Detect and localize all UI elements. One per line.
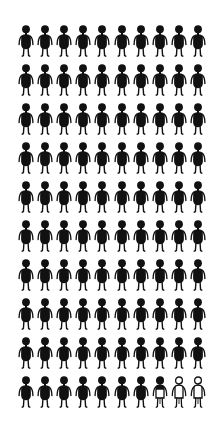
- person-icon-filled: [17, 376, 35, 412]
- person-icon-filled: [113, 64, 131, 100]
- person-icon-filled: [93, 298, 111, 334]
- person-icon-filled: [93, 25, 111, 61]
- person-icon-filled: [74, 181, 92, 217]
- person-icon-filled: [132, 337, 150, 373]
- person-icon-filled: [36, 103, 54, 139]
- person-icon-filled: [113, 298, 131, 334]
- person-icon-filled: [74, 337, 92, 373]
- person-icon-filled: [17, 103, 35, 139]
- person-icon-filled: [189, 337, 207, 373]
- person-icon-filled: [170, 259, 188, 295]
- person-icon-filled: [170, 103, 188, 139]
- person-icon-filled: [151, 220, 169, 256]
- person-icon-filled: [17, 64, 35, 100]
- person-icon-filled: [113, 376, 131, 412]
- person-icon-filled: [113, 181, 131, 217]
- person-icon-filled: [74, 64, 92, 100]
- person-icon-filled: [17, 259, 35, 295]
- person-icon-filled: [55, 25, 73, 61]
- person-icon-filled: [17, 181, 35, 217]
- person-icon-filled: [36, 220, 54, 256]
- person-icon-filled: [93, 142, 111, 178]
- person-icon-filled: [93, 103, 111, 139]
- person-icon-filled: [151, 298, 169, 334]
- person-icon-filled: [132, 220, 150, 256]
- person-icon-filled: [36, 337, 54, 373]
- person-icon-filled: [170, 142, 188, 178]
- person-icon-filled: [55, 298, 73, 334]
- person-icon-filled: [132, 376, 150, 412]
- person-icon-filled: [113, 25, 131, 61]
- person-icon-filled: [132, 103, 150, 139]
- person-icon-filled: [93, 337, 111, 373]
- person-icon-filled: [113, 259, 131, 295]
- person-icon-filled: [170, 181, 188, 217]
- person-icon-filled: [132, 64, 150, 100]
- person-icon-filled: [74, 220, 92, 256]
- person-icon-filled: [189, 103, 207, 139]
- person-icon-filled: [74, 298, 92, 334]
- person-icon-filled: [189, 142, 207, 178]
- person-icon-filled: [151, 64, 169, 100]
- person-icon-filled: [74, 259, 92, 295]
- person-icon-filled: [151, 181, 169, 217]
- person-icon-filled: [151, 142, 169, 178]
- person-icon-partial: [151, 376, 169, 412]
- person-icon-filled: [17, 337, 35, 373]
- person-icon-filled: [55, 103, 73, 139]
- person-icon-filled: [55, 337, 73, 373]
- person-icon-filled: [17, 25, 35, 61]
- person-icon-filled: [170, 220, 188, 256]
- person-icon-filled: [17, 298, 35, 334]
- person-icon-filled: [36, 298, 54, 334]
- person-icon-filled: [189, 259, 207, 295]
- person-icon-filled: [74, 376, 92, 412]
- person-icon-filled: [170, 337, 188, 373]
- person-icon-filled: [189, 298, 207, 334]
- person-icon-filled: [151, 103, 169, 139]
- person-icon-filled: [93, 376, 111, 412]
- person-icon-filled: [93, 259, 111, 295]
- person-icon-filled: [74, 142, 92, 178]
- person-icon-filled: [93, 220, 111, 256]
- person-icon-filled: [55, 181, 73, 217]
- person-icon-filled: [151, 259, 169, 295]
- person-icon-filled: [151, 337, 169, 373]
- person-icon-filled: [55, 376, 73, 412]
- person-icon-filled: [132, 181, 150, 217]
- person-icon-filled: [36, 142, 54, 178]
- person-icon-filled: [189, 220, 207, 256]
- person-icon-filled: [55, 142, 73, 178]
- person-icon-empty: [189, 376, 207, 412]
- person-icon-filled: [170, 64, 188, 100]
- person-icon-filled: [36, 181, 54, 217]
- person-icon-filled: [113, 142, 131, 178]
- person-icon-filled: [55, 220, 73, 256]
- person-icon-filled: [113, 103, 131, 139]
- person-icon-filled: [132, 298, 150, 334]
- person-icon-filled: [189, 64, 207, 100]
- person-icon-empty: [170, 376, 188, 412]
- person-icon-filled: [74, 25, 92, 61]
- person-icon-filled: [36, 25, 54, 61]
- person-icon-filled: [113, 337, 131, 373]
- person-icon-filled: [55, 64, 73, 100]
- person-icon-filled: [189, 181, 207, 217]
- person-icon-filled: [113, 220, 131, 256]
- person-icon-filled: [132, 25, 150, 61]
- person-icon-filled: [170, 298, 188, 334]
- person-icon-filled: [17, 142, 35, 178]
- person-icon-filled: [93, 64, 111, 100]
- person-icon-filled: [189, 25, 207, 61]
- person-icon-filled: [36, 64, 54, 100]
- person-icon-filled: [132, 142, 150, 178]
- person-icon-filled: [170, 25, 188, 61]
- person-icon-filled: [55, 259, 73, 295]
- person-icon-filled: [93, 181, 111, 217]
- person-icon-filled: [36, 376, 54, 412]
- person-icon-filled: [17, 220, 35, 256]
- pictograph-chart: [0, 0, 218, 441]
- person-icon-filled: [36, 259, 54, 295]
- person-icon-filled: [151, 25, 169, 61]
- person-icon-filled: [132, 259, 150, 295]
